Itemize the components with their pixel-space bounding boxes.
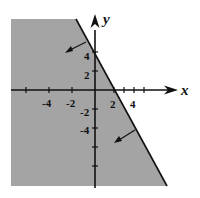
- y-axis-arrow-icon: [91, 14, 100, 28]
- y-tick-label: 2: [84, 69, 90, 81]
- y-tick-label: 4: [84, 50, 90, 62]
- y-tick-label: -4: [80, 124, 90, 136]
- y-tick-label: -2: [80, 106, 90, 118]
- inequality-graph: -4 -2 2 4 x 4 2 -2 -4 y: [0, 0, 200, 198]
- x-tick-label: -4: [42, 97, 52, 109]
- x-tick-label: -2: [66, 97, 76, 109]
- x-axis-label: x: [180, 82, 189, 98]
- x-tick-label: 2: [110, 98, 116, 110]
- y-axis-label: y: [101, 11, 110, 27]
- x-tick-label: 4: [130, 98, 136, 110]
